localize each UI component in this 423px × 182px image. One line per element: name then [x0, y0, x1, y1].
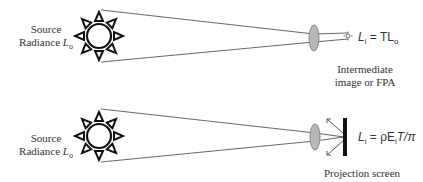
lens-icon: [309, 25, 319, 51]
lens-icon: [310, 124, 320, 150]
top-source-label: Source Radiance Lo: [18, 23, 74, 53]
bottom-caption: Projection screen: [312, 167, 412, 180]
top-system: [75, 10, 353, 62]
top-equation: Li = TLo: [358, 30, 398, 46]
top-caption: Intermediate image or FPA: [315, 63, 415, 89]
bottom-system: [75, 109, 347, 162]
sun-source-icon: [75, 12, 123, 60]
projection-screen: [343, 118, 347, 156]
scatter-arrows: [327, 119, 343, 155]
bottom-equation: Li = ρEiT/π: [358, 130, 415, 146]
bottom-source-label: Source Radiance Lo: [18, 132, 74, 162]
sun-source-icon: [75, 112, 123, 160]
